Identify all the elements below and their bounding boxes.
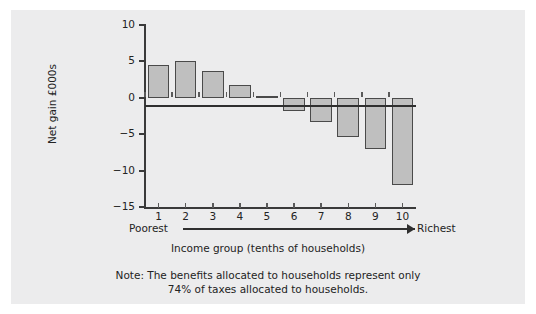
bar xyxy=(392,98,414,185)
x-tick xyxy=(158,203,160,208)
y-tick xyxy=(139,133,144,135)
figure-panel: 1050−5−10−15 Net gain £000s 12345678910 … xyxy=(11,10,525,304)
range-arrow-head-icon xyxy=(407,224,415,234)
chart-note-line-1: Note: The benefits allocated to househol… xyxy=(11,268,525,282)
y-tick xyxy=(139,60,144,62)
x-tick xyxy=(293,203,295,208)
bar xyxy=(175,61,197,97)
x-tick-minor xyxy=(144,92,146,97)
x-tick xyxy=(375,203,377,208)
bar xyxy=(148,65,170,98)
x-tick-minor xyxy=(361,92,363,97)
x-tick-minor xyxy=(307,92,309,97)
x-tick-label: 5 xyxy=(255,210,279,222)
y-tick-label: 0 xyxy=(99,91,135,103)
x-tick-label: 10 xyxy=(390,210,414,222)
x-tick-label: 1 xyxy=(147,210,171,222)
x-tick xyxy=(320,203,322,208)
y-tick xyxy=(139,97,144,99)
x-tick-minor xyxy=(280,92,282,97)
plot-area: 1050−5−10−15 Net gain £000s 12345678910 … xyxy=(11,10,525,304)
x-tick-label: 2 xyxy=(174,210,198,222)
x-tick-minor xyxy=(226,92,228,97)
x-tick-minor xyxy=(198,92,200,97)
x-tick-label: 3 xyxy=(201,210,225,222)
richest-label: Richest xyxy=(417,222,456,234)
x-axis-title: Income group (tenths of households) xyxy=(11,242,525,254)
x-tick-label: 6 xyxy=(282,210,306,222)
y-tick-label: −5 xyxy=(99,127,135,139)
x-tick xyxy=(266,203,268,208)
bar xyxy=(229,85,251,97)
x-tick xyxy=(212,203,214,208)
x-tick-label: 4 xyxy=(228,210,252,222)
y-tick xyxy=(139,206,144,208)
x-tick-label: 8 xyxy=(336,210,360,222)
chart-note-line-2: 74% of taxes allocated to households. xyxy=(11,282,525,296)
x-tick-minor xyxy=(253,92,255,97)
y-axis-line xyxy=(144,24,146,209)
bar xyxy=(256,96,278,98)
bar xyxy=(202,71,224,98)
zero-baseline xyxy=(145,105,416,107)
y-tick-label: 5 xyxy=(99,54,135,66)
chart-note: Note: The benefits allocated to househol… xyxy=(11,268,525,296)
bar xyxy=(337,98,359,137)
bar xyxy=(310,98,332,122)
y-tick xyxy=(139,170,144,172)
x-tick xyxy=(402,203,404,208)
y-tick-label: −15 xyxy=(99,200,135,212)
poorest-label: Poorest xyxy=(129,222,168,234)
x-tick-minor xyxy=(171,92,173,97)
x-tick-minor xyxy=(388,92,390,97)
x-tick xyxy=(348,203,350,208)
y-axis-title: Net gain £000s xyxy=(46,39,58,169)
y-tick xyxy=(139,24,144,26)
y-tick-label: −10 xyxy=(99,164,135,176)
x-tick xyxy=(239,203,241,208)
x-tick-minor xyxy=(334,92,336,97)
x-tick xyxy=(185,203,187,208)
y-tick-label: 10 xyxy=(99,18,135,30)
range-arrow-line xyxy=(183,228,415,230)
x-tick-label: 7 xyxy=(309,210,333,222)
x-tick-label: 9 xyxy=(363,210,387,222)
